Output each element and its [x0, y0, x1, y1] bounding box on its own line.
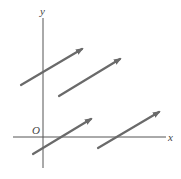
- vector-4-arrow: [98, 112, 159, 148]
- vector-2-arrow: [59, 59, 120, 96]
- x-axis-label: x: [168, 132, 173, 143]
- vector-1-arrow: [21, 49, 82, 85]
- y-axis-label: y: [40, 6, 45, 17]
- vector-diagram: [0, 0, 181, 179]
- vectors-group: [21, 49, 159, 154]
- origin-label: O: [32, 125, 40, 136]
